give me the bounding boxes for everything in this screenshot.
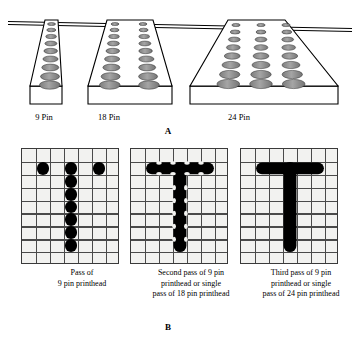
- caption-line: printhead or single: [130, 279, 252, 290]
- panel-a-printheads: 9 Pin 18 Pin 24 Pin A: [0, 0, 359, 142]
- caption-line: Third pass of 9 pin: [240, 268, 359, 279]
- dot-gap: [156, 161, 162, 164]
- dot-matrix-block-9-pin: Pass of 9 pin printhead: [21, 148, 119, 264]
- figure-printhead-resolution: 9 Pin 18 Pin 24 Pin A Pass of 9 pin prin…: [0, 0, 359, 339]
- dot-matrix-grid-9-pin: [21, 148, 119, 264]
- dot-matrix-grid-18-pin: [130, 148, 228, 264]
- matrix-dot: [65, 188, 78, 201]
- dot-gap: [172, 211, 176, 216]
- panel-b-dot-matrix: Pass of 9 pin printhead Second pass of 9…: [0, 148, 359, 339]
- panel-marker-b: B: [158, 322, 178, 332]
- caption-line: Second pass of 9 pin: [130, 268, 252, 279]
- caption-line: printhead or single: [240, 279, 359, 290]
- printhead-9-pin: [30, 20, 62, 104]
- dot-matrix-block-24-pin: Third pass of 9 pin printhead or single …: [240, 148, 338, 264]
- dot-gap: [184, 224, 188, 229]
- dot-gap: [184, 211, 188, 216]
- dot-gap: [172, 198, 176, 203]
- dot-gap: [184, 172, 190, 175]
- caption-line: pass of 24 pin printhead: [240, 289, 359, 300]
- matrix-dot: [65, 201, 78, 214]
- dot-gap: [172, 185, 176, 190]
- matrix-letter-T: [241, 149, 339, 265]
- dot-gap: [184, 185, 188, 190]
- dot-gap: [184, 198, 188, 203]
- grid-line-horizontal: [22, 252, 118, 253]
- caption-line: pass of 18 pin printhead: [130, 289, 252, 300]
- matrix-dot: [65, 175, 78, 188]
- caption-line: Pass of: [21, 268, 143, 279]
- platen-rails: [8, 22, 352, 32]
- grid-line-vertical: [78, 149, 79, 263]
- dot-gap: [172, 224, 176, 229]
- printhead-label-18-pin: 18 Pin: [82, 112, 136, 122]
- dot-gap: [170, 172, 176, 175]
- panel-marker-a: A: [158, 126, 178, 136]
- printhead-label-24-pin: 24 Pin: [210, 112, 268, 122]
- dot-gap: [184, 161, 190, 164]
- caption-24-pin: Third pass of 9 pin printhead or single …: [240, 268, 359, 300]
- dot-matrix-grid-24-pin: [240, 148, 338, 264]
- dot-gap: [198, 161, 204, 164]
- matrix-letter-T: [131, 149, 229, 265]
- caption-line: 9 pin printhead: [21, 279, 143, 290]
- matrix-dot: [65, 213, 78, 226]
- dot-matrix-block-18-pin: Second pass of 9 pin printhead or single…: [130, 148, 228, 264]
- printhead-18-pin: [88, 20, 172, 104]
- matrix-dot: [65, 239, 78, 252]
- dot-gap: [170, 161, 176, 164]
- caption-18-pin: Second pass of 9 pin printhead or single…: [130, 268, 252, 300]
- printhead-24-pin: [190, 20, 338, 104]
- matrix-dot: [93, 162, 106, 175]
- matrix-dot: [37, 162, 50, 175]
- grid-line-vertical: [50, 149, 51, 263]
- dot-gap: [156, 172, 162, 175]
- matrix-dot: [65, 226, 78, 239]
- dot-gap: [198, 172, 204, 175]
- printhead-label-9-pin: 9 Pin: [22, 112, 66, 122]
- caption-9-pin: Pass of 9 pin printhead: [21, 268, 143, 289]
- dot-gap: [172, 237, 176, 242]
- dot-gap: [184, 237, 188, 242]
- grid-line-vertical: [106, 149, 107, 263]
- matrix-dot: [65, 162, 78, 175]
